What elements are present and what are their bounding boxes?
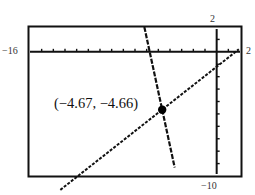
intersection-label: (−4.67, −4.66) — [54, 96, 138, 111]
ymax-label: 2 — [210, 14, 215, 24]
xmin-label: −16 — [2, 46, 18, 56]
ymin-label: −10 — [201, 181, 217, 191]
xmax-label: 2 — [246, 46, 251, 56]
intersection-point — [158, 105, 166, 113]
line-steep — [144, 27, 174, 167]
line-shallow — [60, 49, 239, 190]
